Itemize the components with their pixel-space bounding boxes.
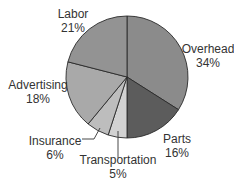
- label-advertising: Advertising 18%: [8, 78, 67, 106]
- label-transportation-pct: 5%: [80, 167, 157, 181]
- label-insurance-pct: 6%: [29, 148, 82, 162]
- label-parts-pct: 16%: [163, 146, 191, 160]
- label-labor-name: Labor: [58, 7, 89, 21]
- label-advertising-pct: 18%: [8, 92, 67, 106]
- label-insurance-name: Insurance: [29, 134, 82, 148]
- label-overhead: Overhead 34%: [182, 42, 234, 70]
- label-parts: Parts 16%: [163, 132, 191, 160]
- label-advertising-name: Advertising: [8, 78, 67, 92]
- label-labor-pct: 21%: [58, 21, 89, 35]
- label-transportation: Transportation 5%: [80, 153, 157, 181]
- label-labor: Labor 21%: [58, 7, 89, 35]
- label-parts-name: Parts: [163, 132, 191, 146]
- label-overhead-name: Overhead: [182, 42, 234, 56]
- label-transportation-name: Transportation: [80, 153, 157, 167]
- label-overhead-pct: 34%: [182, 56, 234, 70]
- label-insurance: Insurance 6%: [29, 134, 82, 162]
